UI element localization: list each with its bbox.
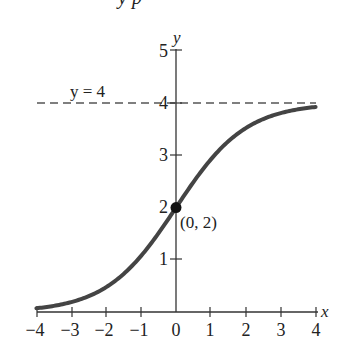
svg-text:−4: −4 — [25, 320, 44, 340]
svg-text:3: 3 — [277, 320, 286, 340]
svg-text:−1: −1 — [129, 320, 148, 340]
x-axis-label: x — [320, 302, 329, 321]
svg-text:5: 5 — [159, 41, 168, 61]
x-tick-labels: −4 −3 −2 −1 0 1 2 3 4 — [25, 320, 320, 340]
svg-text:2: 2 — [242, 320, 251, 340]
svg-text:−3: −3 — [60, 320, 79, 340]
svg-text:2: 2 — [159, 197, 168, 217]
svg-text:0: 0 — [172, 320, 181, 340]
asymptote-label: y = 4 — [70, 82, 106, 101]
logistic-chart: y·p y = 4 −4 −3 −2 −1 0 1 2 3 4 1 2 3 — [0, 0, 346, 364]
y-axis-label: y — [171, 28, 181, 47]
point-marker — [171, 202, 182, 213]
y-tick-labels: 1 2 3 4 5 — [159, 41, 168, 269]
svg-text:4: 4 — [159, 93, 168, 113]
svg-text:1: 1 — [206, 320, 215, 340]
svg-text:1: 1 — [159, 249, 168, 269]
point-label: (0, 2) — [180, 213, 217, 232]
svg-text:−2: −2 — [94, 320, 113, 340]
cutoff-title: y·p — [116, 0, 142, 9]
svg-text:3: 3 — [159, 145, 168, 165]
svg-text:4: 4 — [312, 320, 321, 340]
